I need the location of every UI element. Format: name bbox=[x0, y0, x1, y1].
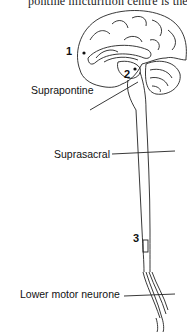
label-lower-motor-neurone: Lower motor neurone bbox=[20, 288, 120, 300]
marker-dot-1 bbox=[82, 51, 85, 54]
brainstem-left bbox=[127, 80, 136, 110]
marker-label-1: 1 bbox=[66, 45, 72, 57]
suprasacral-leader bbox=[112, 151, 175, 154]
brain-spinal-cord-diagram bbox=[0, 0, 187, 332]
marker-label-3: 3 bbox=[133, 232, 139, 244]
label-suprasacral: Suprasacral bbox=[54, 148, 110, 160]
label-suprapontine: Suprapontine bbox=[31, 84, 93, 96]
gyri bbox=[90, 16, 175, 58]
marker-dot-2 bbox=[133, 67, 136, 70]
brainstem-right bbox=[140, 72, 146, 110]
cerebrum-outline bbox=[77, 11, 186, 88]
marker-label-2: 2 bbox=[124, 68, 130, 80]
lower-motor-neurone-leader bbox=[124, 294, 175, 296]
sacral-segment bbox=[143, 240, 148, 252]
suprapontine-leader bbox=[90, 82, 138, 110]
